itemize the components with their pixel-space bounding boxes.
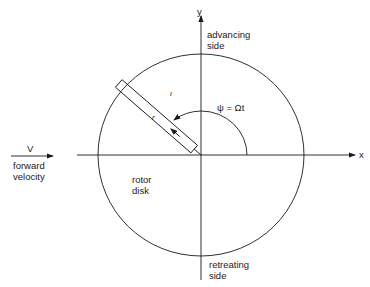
y-axis-label: y	[197, 6, 202, 17]
rotor-blade	[115, 80, 204, 159]
azimuth-arc	[174, 111, 247, 155]
radial-arrow	[171, 129, 180, 137]
azimuth-label: ψ = Ωt	[217, 102, 244, 113]
forward-velocity-label: forward velocity	[13, 160, 45, 182]
blade-mark-label: ι	[170, 88, 172, 99]
diagram-graphics	[0, 0, 370, 287]
rotor-disk-diagram: y x advancing side retreating side rotor…	[0, 0, 370, 287]
x-axis-label: x	[359, 149, 364, 160]
advancing-side-label: advancing side	[207, 29, 250, 51]
radial-label: r	[152, 112, 155, 123]
retreating-side-label: retreating side	[209, 259, 249, 281]
rotor-disk-label: rotor disk	[132, 174, 152, 196]
velocity-symbol: V	[27, 143, 33, 154]
